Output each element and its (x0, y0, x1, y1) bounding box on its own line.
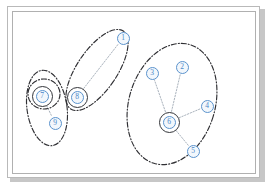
node-label-8: 8 (75, 93, 79, 101)
node-2[interactable]: 2 (176, 61, 189, 74)
node-5[interactable]: 5 (187, 145, 200, 158)
node-layer: 123456789 (0, 0, 272, 190)
node-label-1: 1 (121, 34, 125, 42)
node-4[interactable]: 4 (201, 100, 214, 113)
node-label-7: 7 (40, 92, 44, 100)
node-label-2: 2 (180, 63, 184, 71)
node-6[interactable]: 6 (163, 116, 176, 129)
node-label-5: 5 (191, 147, 195, 155)
node-label-6: 6 (167, 118, 171, 126)
node-8[interactable]: 8 (71, 91, 84, 104)
node-3[interactable]: 3 (146, 67, 159, 80)
figure-root: 123456789 (0, 0, 272, 190)
node-7[interactable]: 7 (36, 90, 49, 103)
node-1[interactable]: 1 (117, 32, 130, 45)
node-9[interactable]: 9 (49, 117, 62, 130)
node-label-4: 4 (205, 102, 209, 110)
node-label-9: 9 (53, 119, 57, 127)
node-label-3: 3 (150, 69, 154, 77)
